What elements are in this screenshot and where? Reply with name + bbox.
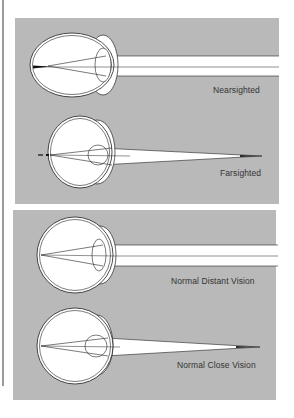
eye-diagrams	[0, 0, 294, 418]
label-farsighted: Farsighted	[220, 168, 261, 178]
label-nearsighted: Nearsighted	[213, 85, 260, 95]
label-normal-distant-vision: Normal Distant Vision	[171, 276, 255, 286]
label-normal-close-vision: Normal Close Vision	[177, 360, 256, 370]
normal-close-eye-diagram	[37, 308, 260, 384]
